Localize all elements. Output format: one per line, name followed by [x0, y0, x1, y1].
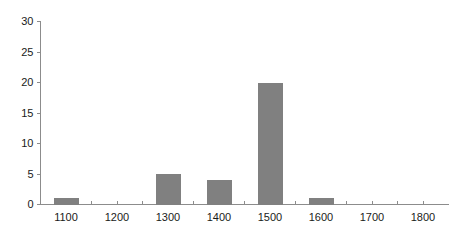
bar-1100	[54, 198, 79, 204]
y-tick-label: 5	[27, 168, 33, 180]
histogram-chart: 0510152025301100120013001400150016001700…	[0, 0, 466, 237]
x-tick-label: 1700	[360, 211, 384, 223]
axis-lines	[41, 22, 449, 205]
bar-1300	[156, 174, 181, 205]
x-tick-label: 1300	[156, 211, 180, 223]
y-tick-label: 25	[21, 46, 33, 58]
bar-1500	[258, 83, 283, 205]
x-tick-label: 1800	[411, 211, 435, 223]
y-tick-label: 10	[21, 137, 33, 149]
y-tick-label: 20	[21, 76, 33, 88]
y-tick-label: 30	[21, 15, 33, 27]
y-tick-label: 0	[27, 198, 33, 210]
y-tick-label: 15	[21, 107, 33, 119]
bar-1400	[207, 180, 232, 204]
chart-canvas: 0510152025301100120013001400150016001700…	[0, 0, 466, 237]
x-tick-label: 1500	[258, 211, 282, 223]
x-tick-label: 1600	[309, 211, 333, 223]
bar-1600	[309, 198, 334, 204]
x-tick-label: 1100	[54, 211, 78, 223]
x-tick-label: 1200	[105, 211, 129, 223]
x-tick-label: 1400	[207, 211, 231, 223]
